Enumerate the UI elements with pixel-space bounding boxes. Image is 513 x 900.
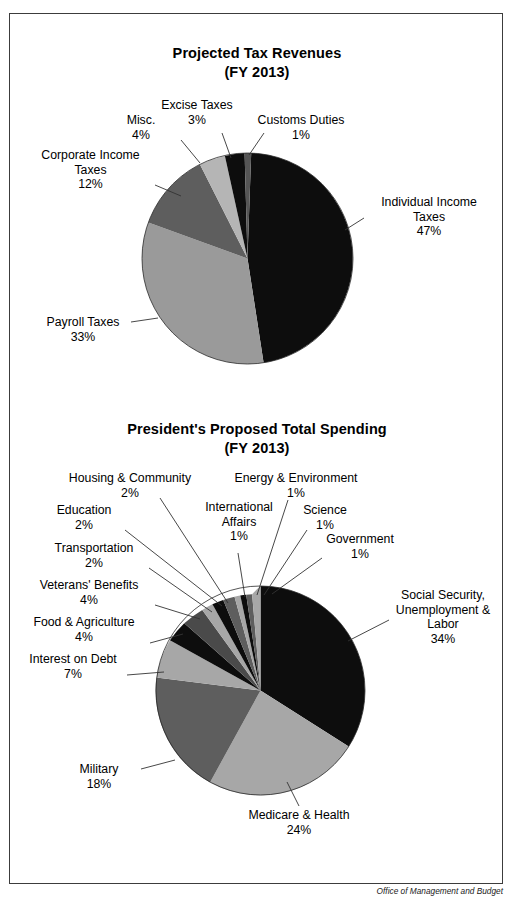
label-military: Military 18% — [56, 762, 142, 791]
label-transportation-pct: 2% — [39, 556, 149, 571]
label-science-pct: 1% — [290, 518, 360, 533]
label-social-security-l1: Social Security, — [401, 588, 485, 602]
label-social-security-pct: 34% — [383, 632, 503, 647]
chart1-pie — [141, 152, 354, 365]
label-energy-environment-text: Energy & Environment — [234, 471, 357, 485]
chart1-title-block: Projected Tax Revenues (FY 2013) — [122, 44, 392, 82]
label-housing-community-pct: 2% — [50, 486, 210, 501]
label-veterans-benefits-pct: 4% — [25, 593, 153, 608]
slice-individual-income-taxes[interactable] — [248, 153, 353, 363]
label-interest-on-debt: Interest on Debt 7% — [17, 652, 129, 681]
label-payroll-taxes: Payroll Taxes 33% — [38, 315, 128, 344]
label-misc-pct: 4% — [110, 128, 172, 143]
label-food-agriculture: Food & Agriculture 4% — [19, 615, 149, 644]
label-individual-income-taxes: Individual Income Taxes 47% — [368, 195, 490, 239]
label-corporate-income-taxes-l2: Taxes — [28, 163, 153, 178]
label-corporate-income-taxes: Corporate Income Taxes 12% — [28, 148, 153, 192]
label-education: Education 2% — [39, 503, 129, 532]
page-canvas: Projected Tax Revenues (FY 2013) — [0, 0, 513, 900]
label-payroll-taxes-text: Payroll Taxes — [47, 315, 120, 329]
label-military-text: Military — [80, 762, 119, 776]
chart1-subtitle: (FY 2013) — [122, 63, 392, 82]
label-military-pct: 18% — [56, 777, 142, 792]
label-education-pct: 2% — [39, 518, 129, 533]
source-credit: Office of Management and Budget — [377, 886, 503, 896]
label-government-pct: 1% — [311, 547, 409, 562]
label-education-text: Education — [57, 503, 112, 517]
label-misc-text: Misc. — [127, 113, 156, 127]
chart1-title: Projected Tax Revenues — [173, 45, 342, 61]
label-international-affairs-l1: International — [205, 500, 273, 514]
label-science: Science 1% — [290, 503, 360, 532]
label-medicare-health: Medicare & Health 24% — [221, 808, 377, 837]
chart2-pie — [155, 585, 366, 796]
chart2-title-block: President's Proposed Total Spending (FY … — [57, 420, 457, 458]
label-energy-environment: Energy & Environment 1% — [216, 471, 376, 500]
label-veterans-benefits-text: Veterans' Benefits — [40, 578, 139, 592]
label-individual-income-taxes-l2: Taxes — [368, 210, 490, 225]
label-individual-income-taxes-l1: Individual Income — [381, 195, 477, 209]
label-corporate-income-taxes-l1: Corporate Income — [41, 148, 139, 162]
label-international-affairs-pct: 1% — [189, 529, 289, 544]
label-medicare-health-pct: 24% — [221, 823, 377, 838]
label-customs-duties: Customs Duties 1% — [241, 113, 361, 142]
label-food-agriculture-text: Food & Agriculture — [33, 615, 134, 629]
chart2-pie-svg — [155, 585, 366, 796]
label-energy-environment-pct: 1% — [216, 486, 376, 501]
label-government-text: Government — [326, 532, 394, 546]
label-payroll-taxes-pct: 33% — [38, 330, 128, 345]
label-international-affairs: International Affairs 1% — [189, 500, 289, 544]
label-international-affairs-l2: Affairs — [189, 515, 289, 530]
chart1-pie-svg — [141, 152, 354, 365]
label-food-agriculture-pct: 4% — [19, 630, 149, 645]
label-science-text: Science — [303, 503, 347, 517]
label-social-security-l3: Labor — [383, 617, 503, 632]
label-individual-income-taxes-pct: 47% — [368, 224, 490, 239]
label-housing-community-text: Housing & Community — [69, 471, 191, 485]
label-interest-on-debt-text: Interest on Debt — [29, 652, 117, 666]
chart2-title: President's Proposed Total Spending — [127, 421, 387, 437]
label-housing-community: Housing & Community 2% — [50, 471, 210, 500]
label-corporate-income-taxes-pct: 12% — [28, 177, 153, 192]
label-government: Government 1% — [311, 532, 409, 561]
label-veterans-benefits: Veterans' Benefits 4% — [25, 578, 153, 607]
label-customs-duties-pct: 1% — [241, 128, 361, 143]
label-misc: Misc. 4% — [110, 113, 172, 142]
chart2-subtitle: (FY 2013) — [57, 439, 457, 458]
label-interest-on-debt-pct: 7% — [17, 667, 129, 682]
label-transportation: Transportation 2% — [39, 541, 149, 570]
label-social-security-l2: Unemployment & — [383, 603, 503, 618]
label-medicare-health-text: Medicare & Health — [248, 808, 349, 822]
label-social-security: Social Security, Unemployment & Labor 34… — [383, 588, 503, 646]
label-transportation-text: Transportation — [55, 541, 134, 555]
label-excise-taxes-text: Excise Taxes — [161, 98, 233, 112]
label-customs-duties-text: Customs Duties — [258, 113, 345, 127]
